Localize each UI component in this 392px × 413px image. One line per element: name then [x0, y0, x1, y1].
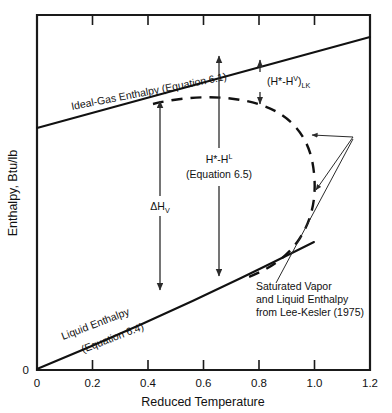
series-lee-kesler-saturation-dome — [153, 97, 315, 278]
x-axis-tick-labels: 0 0.2 0.4 0.6 0.8 1.0 1.2 — [34, 377, 378, 389]
hv-label-subscript: LK — [302, 81, 311, 90]
callout-arrow-lower — [316, 137, 353, 190]
saturation-dome-dashed-curve — [153, 97, 315, 278]
hl-label-base: H*-H — [206, 153, 229, 165]
x-tick-label-0p8: 0.8 — [251, 377, 267, 389]
bottom-axis-ticks — [93, 360, 315, 370]
x-axis-title: Reduced Temperature — [141, 395, 265, 409]
x-tick-label-0p6: 0.6 — [196, 377, 212, 389]
hl-label-superscript: L — [228, 152, 232, 161]
liquid-enthalpy-label-group: Liquid Enthalpy (Equation 6.4) — [59, 305, 145, 355]
x-tick-label-1p2: 1.2 — [362, 377, 378, 389]
x-tick-label-1p0: 1.0 — [307, 377, 323, 389]
callout-arrow-upper — [312, 135, 353, 137]
hl-departure-label-group: H*-HL (Equation 6.5) — [186, 152, 252, 180]
x-tick-label-0p4: 0.4 — [140, 377, 157, 389]
hv-departure-label-group: (H*-HV)LK — [267, 74, 311, 90]
chart-canvas: Ideal-Gas Enthalpy (Equation 6.1) (H*-HV… — [0, 0, 392, 413]
x-tick-label-0p2: 0.2 — [85, 377, 101, 389]
y-axis-origin-label: 0 — [23, 364, 29, 376]
delta-hv-subscript: V — [165, 206, 170, 215]
lee-kesler-callout-leaders — [276, 135, 353, 283]
hv-departure-label: (H*-HV)LK — [267, 74, 311, 90]
y-axis-title: Enthalpy, Btu/lb — [6, 150, 20, 237]
lee-kesler-callout-line2: and Liquid Enthalpy — [256, 293, 349, 305]
callout-stem — [276, 139, 353, 283]
ideal-gas-enthalpy-label: Ideal-Gas Enthalpy (Equation 6.1) — [70, 70, 228, 112]
lee-kesler-callout-line1: Saturated Vapor — [256, 280, 332, 292]
x-tick-label-0: 0 — [34, 377, 40, 389]
delta-hv-base: ΔH — [150, 200, 165, 212]
lee-kesler-callout-line3: from Lee-Kesler (1975) — [256, 306, 364, 318]
hv-label-base: (H*-H — [267, 75, 293, 87]
enthalpy-vs-reduced-temperature-figure: Ideal-Gas Enthalpy (Equation 6.1) (H*-HV… — [0, 0, 392, 413]
top-axis-ticks — [93, 15, 315, 25]
delta-hv-label-group: ΔHV — [150, 200, 170, 215]
delta-hv-label: ΔHV — [150, 200, 170, 215]
hl-departure-label-line2: (Equation 6.5) — [186, 168, 252, 180]
hl-departure-label-line1: H*-HL — [206, 152, 233, 165]
lee-kesler-callout-text: Saturated Vapor and Liquid Enthalpy from… — [256, 280, 364, 318]
